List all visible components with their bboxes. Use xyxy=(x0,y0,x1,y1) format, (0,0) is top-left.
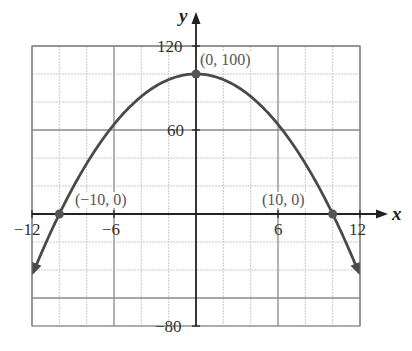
y-axis-arrow-icon xyxy=(192,12,201,24)
x-tick-neg12: −12 xyxy=(14,221,41,238)
x-tick-neg6: −6 xyxy=(102,221,120,238)
x-axis-arrow-icon xyxy=(376,210,388,219)
x-axis-label: x xyxy=(392,204,402,223)
x-tick-12: 12 xyxy=(349,221,366,238)
y-tick-neg80: −80 xyxy=(155,318,182,335)
curve-arrow-right-icon xyxy=(351,262,360,275)
y-axis-label: y xyxy=(179,6,187,25)
curve-arrow-left-icon xyxy=(32,262,41,275)
right-root-label: (10, 0) xyxy=(261,192,306,208)
vertex-label: (0, 100) xyxy=(199,52,252,68)
y-tick-60: 60 xyxy=(167,122,184,139)
y-tick-120: 120 xyxy=(157,38,183,55)
left-root-label: (−10, 0) xyxy=(74,192,128,208)
x-tick-6: 6 xyxy=(274,221,283,238)
